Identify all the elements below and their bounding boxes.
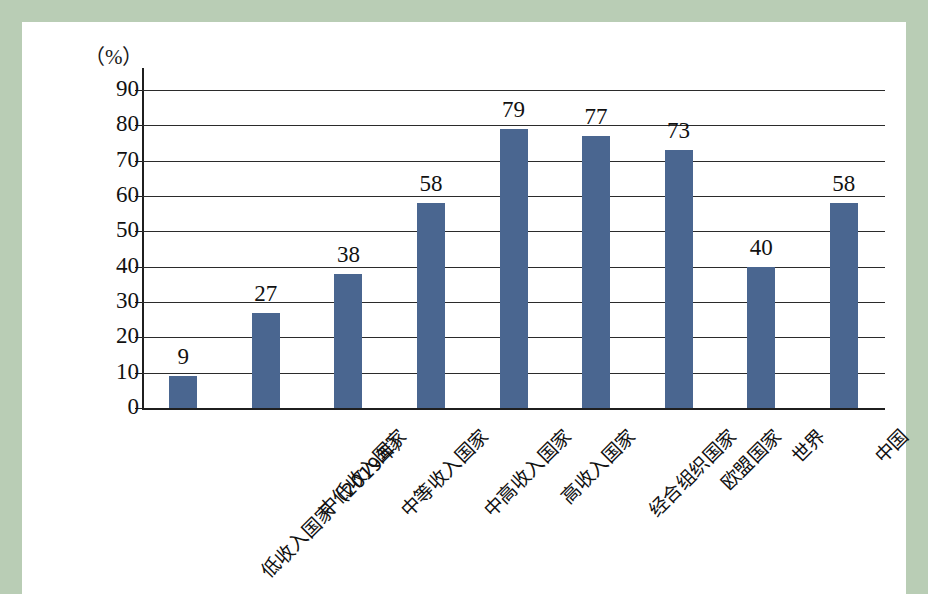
page-border-top xyxy=(0,0,928,22)
bar[interactable] xyxy=(500,129,528,408)
y-axis-tick-label: 30 xyxy=(79,288,139,314)
bar-value-label: 9 xyxy=(148,344,218,370)
y-axis-tick-label: 70 xyxy=(79,147,139,173)
y-axis-tick-label: 60 xyxy=(79,182,139,208)
x-axis-category-label: 中低收入国家 xyxy=(311,422,411,522)
gridline xyxy=(142,125,885,126)
x-axis-category-label: 中高收入国家 xyxy=(476,422,576,522)
bar-value-label: 38 xyxy=(313,242,383,268)
bar-value-label: 79 xyxy=(479,97,549,123)
bar-value-label: 27 xyxy=(231,281,301,307)
y-axis-tick-label: 10 xyxy=(79,359,139,385)
y-axis-tick-label: 90 xyxy=(79,76,139,102)
x-axis-category-label: 中国 xyxy=(867,422,913,468)
bar[interactable] xyxy=(830,203,858,408)
bar[interactable] xyxy=(417,203,445,408)
page-border-right xyxy=(906,0,928,594)
x-axis-category-label: 世界 xyxy=(784,422,830,468)
y-axis-tick-label: 20 xyxy=(79,323,139,349)
page-root: （%） 90807060504030201009低收入国家（2019年）27中低… xyxy=(0,0,928,594)
bar[interactable] xyxy=(582,136,610,408)
bar-value-label: 40 xyxy=(726,235,796,261)
bar-value-label: 77 xyxy=(561,104,631,130)
bar[interactable] xyxy=(252,313,280,408)
bar[interactable] xyxy=(747,267,775,408)
y-axis-tick-label: 80 xyxy=(79,111,139,137)
y-axis-unit-label: （%） xyxy=(84,40,144,70)
page-border-left xyxy=(0,0,22,594)
bar[interactable] xyxy=(665,150,693,408)
y-axis-tick-label: 50 xyxy=(79,217,139,243)
y-axis-line xyxy=(142,68,144,408)
y-axis-tick-label: 40 xyxy=(79,253,139,279)
bar-value-label: 58 xyxy=(396,171,466,197)
y-axis-tick-label: 0 xyxy=(79,394,139,420)
bar-value-label: 73 xyxy=(644,118,714,144)
bar-chart: （%） 90807060504030201009低收入国家（2019年）27中低… xyxy=(22,22,906,594)
plot-area: 90807060504030201009低收入国家（2019年）27中低收入国家… xyxy=(142,90,885,408)
gridline xyxy=(142,90,885,91)
bar-value-label: 58 xyxy=(809,171,879,197)
bar[interactable] xyxy=(334,274,362,408)
bar[interactable] xyxy=(169,376,197,408)
x-axis-line xyxy=(142,408,885,410)
